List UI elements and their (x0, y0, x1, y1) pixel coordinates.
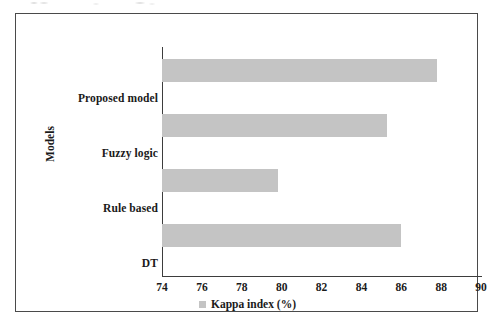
x-axis-tick-label: 78 (227, 281, 257, 293)
x-axis-tick-label: 82 (307, 281, 337, 293)
chart-legend: Kappa index (%) (16, 298, 479, 310)
x-axis-tick-label: 86 (386, 281, 416, 293)
y-axis-category-labels: Proposed model Fuzzy logic Rule based DT (24, 47, 158, 276)
y-axis-tick-label: DT (28, 257, 158, 269)
x-axis-tick-label: 90 (466, 281, 494, 293)
y-axis-tick-label: Rule based (28, 202, 158, 214)
x-axis-tick-label: 88 (426, 281, 456, 293)
legend-label: Kappa index (%) (211, 298, 296, 310)
chart-figure-frame: Models Proposed model Fuzzy logic Rule b… (15, 13, 478, 312)
y-axis-tick-label: Fuzzy logic (28, 147, 158, 159)
plot-area (162, 47, 481, 276)
bar (162, 59, 437, 82)
x-axis-tick-label: 76 (187, 281, 217, 293)
bar (162, 114, 387, 137)
bar (162, 169, 278, 192)
x-axis-line (162, 276, 482, 277)
y-axis-tick-label: Proposed model (28, 92, 158, 104)
x-axis-tick-label: 84 (346, 281, 376, 293)
legend-swatch-icon (199, 301, 206, 308)
scan-artifact (0, 0, 494, 11)
x-axis-tick-label: 80 (267, 281, 297, 293)
x-axis-tick-label: 74 (147, 281, 177, 293)
bar (162, 224, 401, 247)
